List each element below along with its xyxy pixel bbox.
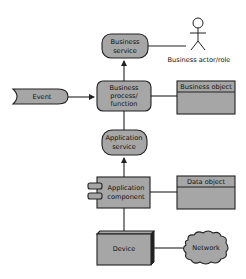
data-object-label: Data object <box>187 178 226 186</box>
event-node[interactable]: Event <box>13 89 68 104</box>
business-service-node[interactable]: Business service <box>102 34 148 58</box>
business-object-node[interactable]: Business object <box>177 81 235 114</box>
component-tab-icon <box>88 183 102 189</box>
business-service-label-1: Business <box>110 38 140 46</box>
business-process-label-2: process/ <box>110 92 138 100</box>
business-process-label-3: function <box>111 100 138 108</box>
application-service-label-1: Application <box>106 134 143 142</box>
business-actor-node[interactable]: Business actor/role <box>168 18 231 64</box>
component-tab-icon <box>88 193 102 199</box>
business-actor-label: Business actor/role <box>168 56 231 64</box>
archimate-diagram: Business service Business actor/role Eve… <box>0 0 246 279</box>
application-service-node[interactable]: Application service <box>102 130 147 155</box>
business-process-node[interactable]: Business process/ function <box>97 81 151 111</box>
application-component-node[interactable]: Application component <box>88 177 150 208</box>
device-node[interactable]: Device <box>97 231 154 265</box>
application-component-label-1: Application <box>108 184 145 192</box>
network-node[interactable]: Network <box>184 231 229 264</box>
network-label: Network <box>192 244 220 252</box>
business-process-label-1: Business <box>109 84 139 92</box>
event-label: Event <box>33 93 52 101</box>
data-object-node[interactable]: Data object <box>177 176 235 209</box>
business-service-label-2: service <box>113 47 137 55</box>
application-component-label-2: component <box>107 193 145 201</box>
stick-figure-icon <box>190 18 206 50</box>
application-service-label-2: service <box>112 143 136 151</box>
business-object-label: Business object <box>180 83 232 91</box>
device-label: Device <box>113 245 136 253</box>
